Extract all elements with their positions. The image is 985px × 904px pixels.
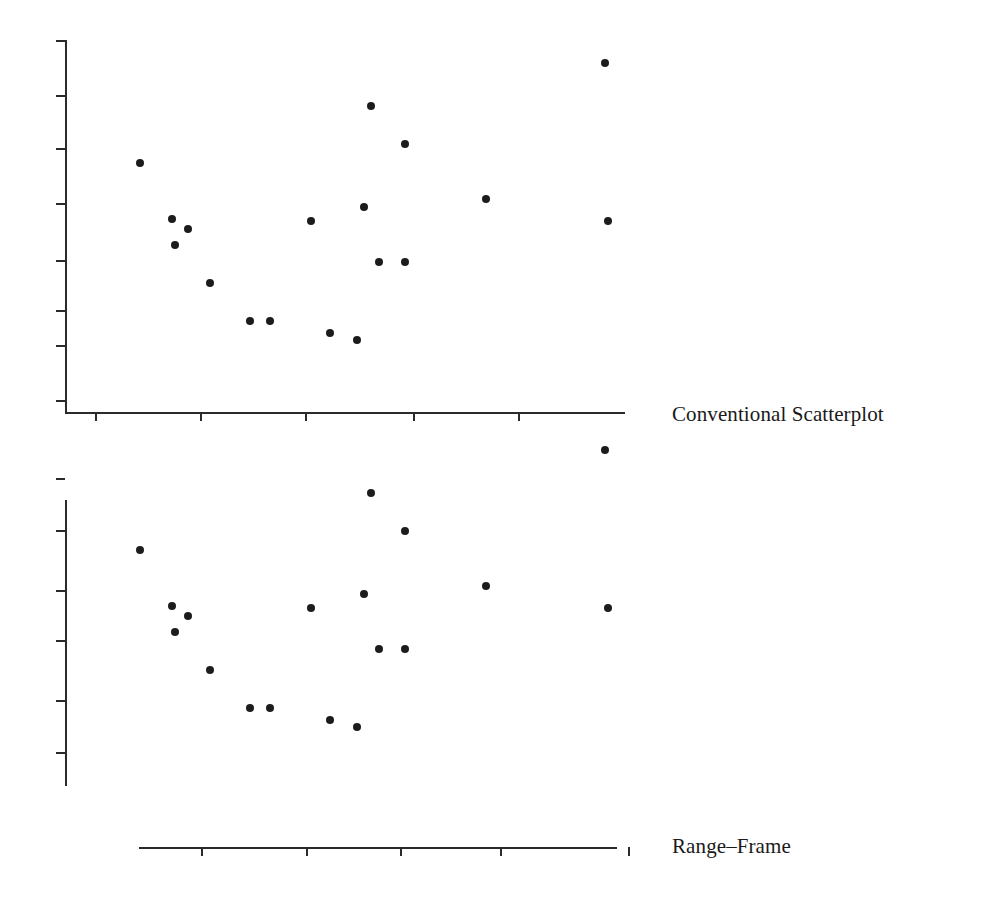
datapoint-10	[360, 590, 368, 598]
caption-range-frame: Range–Frame	[672, 836, 791, 857]
datapoint-17	[604, 217, 612, 225]
datapoint-15	[482, 195, 490, 203]
datapoint-11	[367, 489, 375, 497]
datapoint-11	[367, 102, 375, 110]
plot-area-range-frame	[0, 452, 660, 904]
y-axis-tick-6	[56, 345, 65, 347]
datapoint-3	[171, 241, 179, 249]
datapoint-7	[307, 217, 315, 225]
datapoint-16	[601, 446, 609, 454]
datapoint-6	[266, 704, 274, 712]
y-axis-line	[65, 40, 67, 413]
y-axis-tick-7	[56, 400, 65, 402]
panel-conventional-scatterplot: Conventional Scatterplot	[0, 0, 985, 452]
y-axis-tick-0	[56, 40, 65, 42]
y-axis-tick-4	[56, 752, 65, 754]
datapoint-3	[171, 628, 179, 636]
datapoint-12	[375, 258, 383, 266]
datapoint-9	[353, 723, 361, 731]
x-axis-tick-1	[306, 847, 308, 856]
datapoint-16	[601, 59, 609, 67]
y-axis-tick-4	[56, 260, 65, 262]
x-axis-line	[65, 412, 625, 414]
datapoint-13	[401, 140, 409, 148]
datapoint-0	[136, 159, 144, 167]
x-axis-tick-4	[518, 412, 520, 421]
datapoint-5	[246, 317, 254, 325]
y-axis-tick-5	[56, 310, 65, 312]
datapoint-1	[168, 602, 176, 610]
datapoint-17	[604, 604, 612, 612]
datapoint-2	[184, 612, 192, 620]
datapoint-15	[482, 582, 490, 590]
figure-root: Conventional Scatterplot Range–Frame	[0, 0, 985, 904]
datapoint-4	[206, 279, 214, 287]
x-axis-tick-1	[200, 412, 202, 421]
y-axis-tick-2	[56, 640, 65, 642]
x-axis-tick-3	[500, 847, 502, 856]
x-axis-tick-0	[95, 412, 97, 421]
datapoint-8	[326, 329, 334, 337]
y-axis-detached-tick	[56, 478, 65, 480]
datapoint-1	[168, 215, 176, 223]
datapoint-9	[353, 336, 361, 344]
y-axis-tick-3	[56, 700, 65, 702]
x-axis-tick-0	[201, 847, 203, 856]
plot-area-conventional	[0, 0, 660, 452]
x-axis-tick-3	[413, 412, 415, 421]
x-axis-tick-2	[400, 847, 402, 856]
y-axis-tick-3	[56, 203, 65, 205]
datapoint-4	[206, 666, 214, 674]
datapoint-14	[401, 258, 409, 266]
caption-conventional-scatterplot: Conventional Scatterplot	[672, 404, 884, 425]
y-axis-tick-1	[56, 95, 65, 97]
datapoint-0	[136, 546, 144, 554]
x-axis-line	[139, 847, 617, 849]
panel-range-frame: Range–Frame	[0, 452, 985, 904]
datapoint-12	[375, 645, 383, 653]
datapoint-5	[246, 704, 254, 712]
x-axis-tick-2	[305, 412, 307, 421]
datapoint-13	[401, 527, 409, 535]
y-axis-tick-0	[56, 530, 65, 532]
y-axis-tick-2	[56, 148, 65, 150]
datapoint-6	[266, 317, 274, 325]
x-axis-detached-tick	[628, 847, 630, 856]
y-axis-tick-1	[56, 590, 65, 592]
datapoint-8	[326, 716, 334, 724]
datapoint-7	[307, 604, 315, 612]
datapoint-10	[360, 203, 368, 211]
datapoint-2	[184, 225, 192, 233]
datapoint-14	[401, 645, 409, 653]
y-axis-line	[65, 500, 67, 786]
